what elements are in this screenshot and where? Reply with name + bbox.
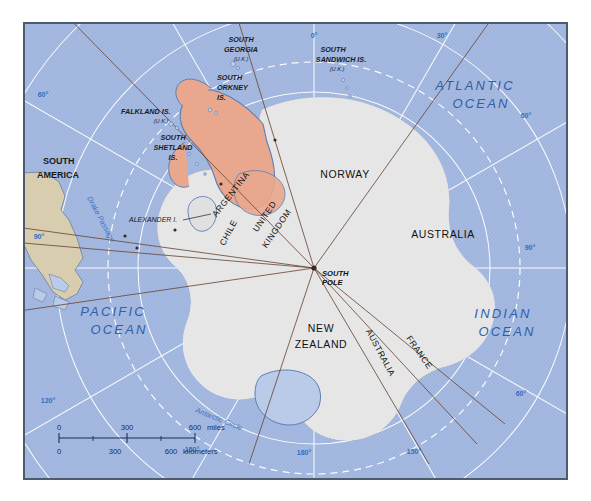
ocean-label-atlantic-line1: ATLANTIC: [434, 78, 514, 93]
grat-label-0: 0°: [311, 32, 318, 39]
island-label-south-orkney-line3: IS.: [217, 93, 226, 102]
feature-label-alexander-island: ALEXANDER I.: [128, 216, 177, 223]
south-pole-label-line2: POLE: [322, 278, 344, 287]
scale-km-unit: kilometers: [183, 447, 218, 456]
ocean-label-indian-line1: INDIAN: [474, 306, 531, 321]
island-sub-falkland: (U.K.): [154, 118, 169, 124]
grat-label-60w: 60°: [38, 91, 49, 98]
island-label-south-georgia-line2: GEORGIA: [224, 45, 258, 54]
grat-label-30e: 30°: [437, 32, 448, 39]
scale-miles-tick-600: 600: [189, 423, 202, 432]
grat-label-150e: 150°: [407, 448, 422, 455]
grat-label-60e-south: 60°: [516, 390, 527, 397]
landmass-label-south-america-line2: AMERICA: [37, 170, 79, 180]
grat-label-90w: 90°: [34, 233, 45, 240]
map-canvas: ATLANTIC OCEAN INDIAN OCEAN PACIFIC OCEA…: [25, 24, 566, 478]
ocean-label-pacific-line2: OCEAN: [90, 322, 147, 337]
south-pole-label-line1: SOUTH: [322, 269, 349, 278]
claim-label-new-zealand-line1: NEW: [308, 322, 334, 334]
island-label-south-shetland-line1: SOUTH: [160, 133, 186, 142]
island-label-south-shetland-line3: IS.: [169, 153, 178, 162]
island-label-south-orkney-line1: SOUTH: [217, 73, 243, 82]
claim-label-australia-main: AUSTRALIA: [411, 228, 475, 240]
island-label-south-georgia-line1: SOUTH: [228, 35, 254, 44]
scale-km-tick-0: 0: [57, 447, 61, 456]
island-sub-south-georgia: (U.K.): [234, 56, 249, 62]
scale-km-tick-600: 600: [165, 447, 178, 456]
ocean-label-atlantic-line2: OCEAN: [452, 96, 509, 111]
ocean-label-pacific-line1: PACIFIC: [80, 304, 146, 319]
scale-miles-tick-0: 0: [57, 423, 61, 432]
antarctica-claims-map: ATLANTIC OCEAN INDIAN OCEAN PACIFIC OCEA…: [0, 0, 591, 501]
island-label-falkland: FALKLAND IS.: [121, 107, 171, 116]
claim-label-norway: NORWAY: [320, 168, 370, 180]
island-label-south-sandwich-line1: SOUTH: [320, 45, 346, 54]
grat-label-90e: 90°: [525, 244, 536, 251]
grat-label-120w: 120°: [41, 397, 56, 404]
scale-km-tick-300: 300: [109, 447, 122, 456]
scale-miles-tick-300: 300: [121, 423, 134, 432]
scale-miles-unit: miles: [207, 423, 225, 432]
island-label-south-orkney-line2: ORKNEY: [217, 83, 249, 92]
map-frame: ATLANTIC OCEAN INDIAN OCEAN PACIFIC OCEA…: [23, 22, 568, 480]
ocean-label-indian-line2: OCEAN: [478, 324, 535, 339]
grat-label-180: 180°: [297, 449, 312, 456]
landmass-label-south-america-line1: SOUTH: [43, 156, 75, 166]
claim-label-new-zealand-line2: ZEALAND: [295, 338, 348, 350]
grat-label-60e: 60°: [521, 112, 532, 119]
island-sub-south-sandwich: (U.K.): [330, 66, 345, 72]
island-label-south-shetland-line2: SHETLAND: [153, 143, 192, 152]
island-label-south-sandwich-line2: SANDWICH IS.: [316, 55, 366, 64]
